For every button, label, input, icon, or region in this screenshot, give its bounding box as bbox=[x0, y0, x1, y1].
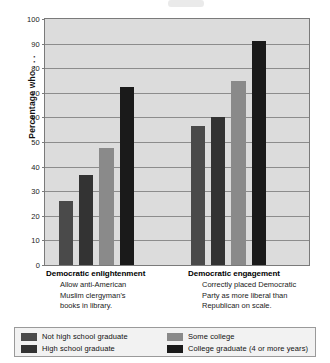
chart-legend: Not high school graduate High school gra… bbox=[14, 327, 316, 357]
y-tick-label: 100 bbox=[27, 15, 40, 24]
group-subtitle: Correctly placed DemocraticParty as more… bbox=[188, 280, 320, 312]
group-subtitle-line: books in library. bbox=[60, 301, 178, 312]
y-tick-label: 0 bbox=[36, 261, 40, 270]
y-tick-mark bbox=[42, 265, 45, 266]
plot-area: 0102030405060708090100 bbox=[44, 18, 310, 266]
legend-swatch-icon bbox=[21, 333, 37, 341]
group-subtitle: Allow anti-AmericanMuslim clergyman'sboo… bbox=[46, 280, 178, 312]
y-tick-label: 80 bbox=[31, 64, 40, 73]
legend-item[interactable]: Some college bbox=[167, 331, 235, 342]
legend-swatch-icon bbox=[167, 333, 183, 341]
bar bbox=[252, 41, 266, 265]
group-subtitle-line: Muslim clergyman's bbox=[60, 291, 178, 302]
bar bbox=[59, 201, 73, 265]
legend-item[interactable]: High school graduate bbox=[21, 343, 115, 354]
bar bbox=[211, 117, 225, 265]
group-title: Democratic engagement bbox=[188, 269, 320, 278]
group-subtitle-line: Party as more liberal than bbox=[202, 291, 320, 302]
legend-label: Not high school graduate bbox=[42, 332, 128, 341]
y-tick-label: 70 bbox=[31, 88, 40, 97]
legend-label: High school graduate bbox=[42, 344, 115, 353]
y-tick-label: 40 bbox=[31, 162, 40, 171]
chart-root: Percentage who . . . 0102030405060708090… bbox=[0, 0, 330, 363]
group-caption: Democratic enlightenmentAllow anti-Ameri… bbox=[46, 269, 178, 312]
bar bbox=[191, 126, 205, 265]
legend-label: College graduate (4 or more years) bbox=[188, 344, 308, 353]
legend-item[interactable]: College graduate (4 or more years) bbox=[167, 343, 308, 354]
group-subtitle-line: Republican on scale. bbox=[202, 301, 320, 312]
group-subtitle-line: Correctly placed Democratic bbox=[202, 280, 320, 291]
group-captions: Democratic enlightenmentAllow anti-Ameri… bbox=[44, 269, 330, 321]
bar bbox=[79, 175, 93, 265]
page-artifact bbox=[168, 0, 204, 7]
plot-wrapper: 0102030405060708090100 bbox=[44, 18, 310, 266]
y-tick-label: 20 bbox=[31, 211, 40, 220]
legend-swatch-icon bbox=[21, 345, 37, 353]
legend-label: Some college bbox=[188, 332, 235, 341]
y-tick-label: 30 bbox=[31, 187, 40, 196]
group-title: Democratic enlightenment bbox=[46, 269, 178, 278]
y-tick-label: 50 bbox=[31, 138, 40, 147]
y-tick-label: 90 bbox=[31, 39, 40, 48]
legend-item[interactable]: Not high school graduate bbox=[21, 331, 128, 342]
bar bbox=[120, 87, 134, 265]
group-caption: Democratic engagementCorrectly placed De… bbox=[188, 269, 320, 312]
y-tick-label: 60 bbox=[31, 113, 40, 122]
legend-swatch-icon bbox=[167, 345, 183, 353]
group-subtitle-line: Allow anti-American bbox=[60, 280, 178, 291]
bar bbox=[99, 148, 113, 265]
bars-layer bbox=[45, 19, 309, 265]
bar bbox=[231, 81, 245, 266]
y-tick-label: 10 bbox=[31, 236, 40, 245]
